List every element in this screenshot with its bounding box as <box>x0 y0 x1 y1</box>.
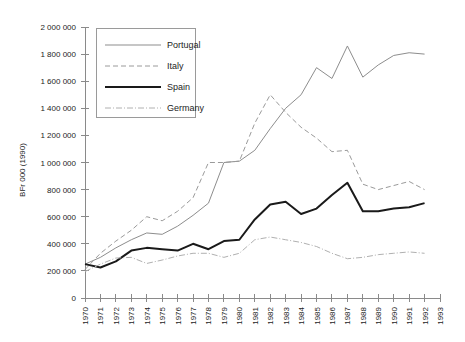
x-tick-label: 1976 <box>174 306 183 324</box>
y-tick-label: 1 000 000 <box>40 159 76 168</box>
y-axis-ticks: 0200 000400 000600 000800 0001 000 0001 … <box>40 23 89 303</box>
x-tick-label: 1984 <box>297 306 306 324</box>
legend-label-spain: Spain <box>167 82 190 92</box>
x-tick-label: 1970 <box>81 306 90 324</box>
x-tick-label: 1980 <box>235 306 244 324</box>
chart-legend: PortugalItalySpainGermany <box>96 28 205 117</box>
legend-label-portugal: Portugal <box>167 40 201 50</box>
chart-container: BFr 000 (1990) 0200 000400 000600 000800… <box>0 0 465 342</box>
series-line-italy <box>85 95 425 270</box>
y-tick-label: 1 400 000 <box>40 104 76 113</box>
x-tick-label: 1972 <box>112 306 121 324</box>
x-tick-label: 1973 <box>127 306 136 324</box>
x-tick-label: 1977 <box>189 306 198 324</box>
x-tick-label: 1990 <box>390 306 399 324</box>
line-chart: BFr 000 (1990) 0200 000400 000600 000800… <box>0 0 465 342</box>
x-tick-label: 1979 <box>220 306 229 324</box>
x-tick-label: 1988 <box>359 306 368 324</box>
y-tick-label: 1 200 000 <box>40 131 76 140</box>
y-axis-title-group: BFr 000 (1990) <box>18 143 27 197</box>
x-tick-label: 1971 <box>96 306 105 324</box>
x-tick-label: 1992 <box>421 306 430 324</box>
x-tick-label: 1983 <box>282 306 291 324</box>
y-tick-label: 600 000 <box>47 213 76 222</box>
x-tick-label: 1978 <box>204 306 213 324</box>
series-line-germany <box>85 237 425 272</box>
x-tick-label: 1987 <box>343 306 352 324</box>
x-tick-label: 1989 <box>374 306 383 324</box>
y-tick-label: 800 000 <box>47 186 76 195</box>
x-tick-label: 1982 <box>266 306 275 324</box>
y-tick-label: 400 000 <box>47 240 76 249</box>
legend-label-germany: Germany <box>167 103 205 113</box>
x-tick-label: 1991 <box>405 306 414 324</box>
x-tick-label: 1981 <box>251 306 260 324</box>
y-tick-label: 0 <box>72 294 77 303</box>
legend-label-italy: Italy <box>167 61 184 71</box>
y-axis-title: BFr 000 (1990) <box>18 143 27 197</box>
x-tick-label: 1986 <box>328 306 337 324</box>
y-tick-label: 1 600 000 <box>40 77 76 86</box>
series-line-spain <box>85 183 425 268</box>
x-tick-label: 1993 <box>436 306 445 324</box>
x-tick-label: 1975 <box>158 306 167 324</box>
y-tick-label: 2 000 000 <box>40 23 76 32</box>
y-tick-label: 200 000 <box>47 267 76 276</box>
y-tick-label: 1 800 000 <box>40 50 76 59</box>
x-tick-label: 1974 <box>143 306 152 324</box>
x-axis-ticks: 1970197119721973197419751976197719781979… <box>81 294 445 325</box>
x-tick-label: 1985 <box>313 306 322 324</box>
